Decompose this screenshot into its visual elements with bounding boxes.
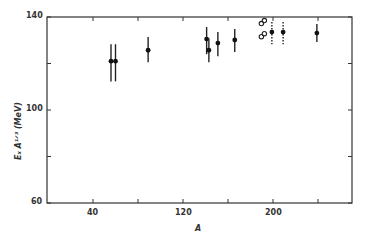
data-point bbox=[146, 48, 151, 53]
x-axis-label: A bbox=[195, 224, 201, 233]
data-points bbox=[109, 18, 320, 81]
axis-ticks bbox=[47, 17, 352, 203]
y-axis-label: Eₓ A¹ᐟ³ (MeV) bbox=[14, 102, 23, 160]
plot-frame bbox=[47, 17, 352, 203]
data-point bbox=[206, 48, 211, 53]
data-point bbox=[113, 59, 118, 64]
x-tick-40: 40 bbox=[87, 208, 98, 217]
x-tick-120: 120 bbox=[175, 208, 192, 217]
y-tick-100: 100 bbox=[26, 104, 43, 113]
data-point bbox=[109, 59, 114, 64]
chart-canvas bbox=[0, 0, 370, 239]
x-tick-200: 200 bbox=[265, 208, 282, 217]
open-marker bbox=[262, 18, 266, 22]
data-point bbox=[314, 31, 319, 36]
data-point bbox=[269, 30, 274, 35]
open-marker bbox=[262, 31, 266, 35]
y-tick-60: 60 bbox=[31, 197, 42, 206]
data-point bbox=[232, 38, 237, 43]
data-point bbox=[215, 41, 220, 46]
data-point bbox=[281, 30, 286, 35]
y-tick-140: 140 bbox=[26, 11, 43, 20]
